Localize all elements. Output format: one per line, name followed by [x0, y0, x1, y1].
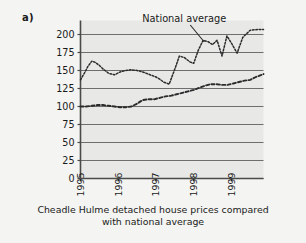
y-tick-label: 150	[56, 65, 74, 76]
figure-caption: Cheadle Hulme detached house prices comp…	[0, 204, 306, 228]
x-tick-label: 1996	[113, 173, 124, 197]
figure-container: a) 0255075100125150175200 19951996199719…	[0, 0, 306, 243]
y-tick-label: 75	[62, 119, 74, 130]
y-axis-tick-labels: 0255075100125150175200	[56, 29, 80, 184]
x-tick-label: 1997	[150, 173, 161, 197]
caption-line-1: Cheadle Hulme detached house prices comp…	[0, 204, 306, 216]
y-tick-label: 25	[62, 155, 74, 166]
y-tick-label: 0	[68, 173, 74, 184]
y-tick-label: 200	[56, 29, 74, 40]
y-tick-label: 125	[56, 83, 74, 94]
y-tick-label: 50	[62, 137, 74, 148]
x-tick-label: 1999	[226, 173, 237, 197]
x-tick-label: 1998	[188, 173, 199, 197]
plot-background	[81, 21, 264, 179]
y-tick-label: 100	[56, 101, 74, 112]
annotation-label: National average	[142, 13, 226, 24]
y-tick-label: 175	[56, 47, 74, 58]
x-tick-label: 1995	[75, 173, 86, 197]
caption-line-2: with national average	[0, 216, 306, 228]
